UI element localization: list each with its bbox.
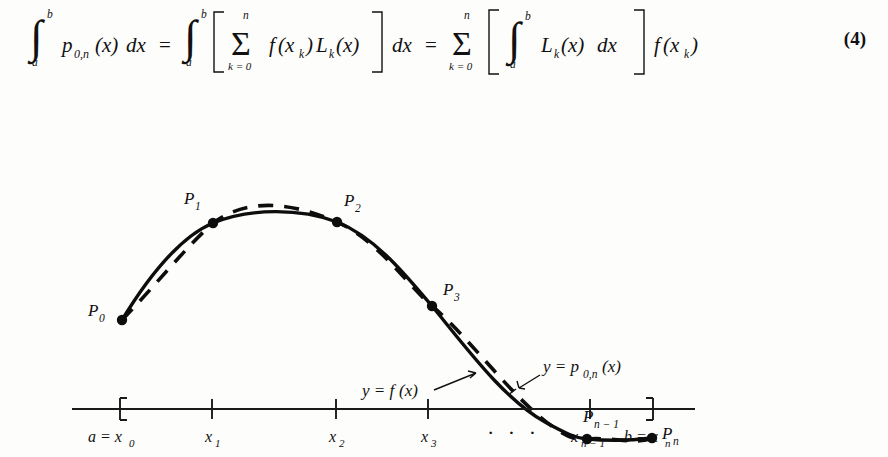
integrand-p-arg: (x) — [95, 33, 118, 57]
integral-1-upper: b — [47, 8, 53, 20]
equals-sign-2: = — [425, 33, 437, 57]
axis-label-x1-sub: 1 — [215, 437, 221, 449]
node-dot-P2 — [332, 217, 342, 227]
sum-symbol-2: Σ — [452, 25, 472, 62]
annotation-p-sub: 0,n — [583, 368, 598, 381]
annotation-p-leader — [517, 375, 540, 389]
axis-label-b-main: b = x — [624, 428, 658, 445]
integral-3-lower: a — [510, 58, 516, 70]
axis-label-a-sub: 0 — [129, 437, 135, 449]
annotation-p-tail: (x) — [602, 357, 621, 376]
bracket-close-1 — [372, 12, 382, 72]
sum-1-L-sub: k — [329, 48, 335, 60]
annotation-p-main: y = p — [541, 357, 579, 376]
sum-1-f: f — [269, 33, 278, 57]
sum-1-f-sub: k — [299, 48, 305, 60]
integral-3-L: L — [540, 33, 553, 57]
sum-1-upper: n — [243, 9, 249, 21]
integral-3-L-arg: (x) — [561, 33, 584, 57]
equals-sign-1: = — [159, 33, 171, 57]
integral-1-lower: a — [32, 56, 38, 68]
equation-svg: ∫ a b p 0,n (x) dx = ∫ a b Σ k = 0 n f (… — [0, 0, 888, 82]
integrand-p-sub: 0,n — [74, 47, 89, 61]
annotation-f-main: y = f — [360, 381, 397, 400]
tail-sub: k — [684, 48, 690, 60]
sum-2-lower: k = 0 — [449, 60, 473, 72]
polynomial-curve-p — [122, 205, 652, 441]
bracket-open-2 — [489, 10, 499, 74]
tail-close: ) — [690, 33, 698, 57]
integral-2-upper: b — [201, 8, 207, 20]
axis-label-x3-main: x — [420, 428, 428, 445]
bracket-close-2 — [634, 10, 644, 74]
point-label-P1-base: P — [183, 189, 194, 208]
integral-3-upper: b — [525, 10, 531, 22]
node-dot-P0 — [117, 315, 127, 325]
sum-1-L: L — [315, 33, 328, 57]
point-label-P2-base: P — [343, 191, 354, 210]
display-equation: ∫ a b p 0,n (x) dx = ∫ a b Σ k = 0 n f (… — [0, 0, 888, 82]
node-dot-P1 — [208, 218, 218, 228]
tail-f: f — [654, 33, 663, 57]
sum-1-L-arg: (x) — [336, 33, 359, 57]
axis-ellipsis: · · · — [487, 420, 540, 445]
axis-label-x3-sub: 3 — [430, 437, 437, 449]
point-label-Pn-sub: n — [673, 435, 679, 447]
figure-svg: P 0 P 1 P 2 P 3 P n − 1 P n y = p 0,n (x… — [0, 82, 888, 457]
point-label-P0-base: P — [87, 301, 98, 320]
function-curve-f — [122, 212, 652, 440]
annotation-f-tail: (x) — [399, 381, 418, 400]
node-dot-P3 — [427, 301, 437, 311]
differential-2: dx — [392, 33, 413, 57]
interpolation-figure: P 0 P 1 P 2 P 3 P n − 1 P n y = p 0,n (x… — [0, 82, 888, 457]
figure-page: ∫ a b p 0,n (x) dx = ∫ a b Σ k = 0 n f (… — [0, 0, 888, 457]
point-label-Pn-1-sub: n − 1 — [594, 418, 619, 430]
axis-label-x1-main: x — [204, 428, 212, 445]
point-label-P1-sub: 1 — [195, 200, 201, 212]
integrand-p: p — [60, 33, 73, 57]
axis-label-xn-1-sub: n − 1 — [581, 437, 605, 449]
axis-label-b-sub: n — [665, 437, 671, 449]
point-label-P2-sub: 2 — [355, 202, 361, 214]
differential-3: dx — [597, 33, 618, 57]
axis-label-a-main: a = x — [88, 428, 122, 445]
axis-label-x2-sub: 2 — [339, 437, 345, 449]
sum-1-f-close: ) — [305, 33, 313, 57]
equation-number: (4) — [844, 28, 866, 50]
axis-label-xn-1-main: x — [570, 428, 578, 445]
sum-2-upper: n — [464, 9, 470, 21]
integral-2-lower: a — [186, 56, 192, 68]
sum-symbol-1: Σ — [231, 25, 251, 62]
bracket-open-1 — [214, 12, 224, 72]
axis-label-x2-main: x — [328, 428, 336, 445]
integral-3-L-sub: k — [554, 48, 560, 60]
point-label-P3-sub: 3 — [453, 291, 460, 303]
sum-1-lower: k = 0 — [228, 60, 252, 72]
point-label-P3-base: P — [442, 280, 453, 299]
annotation-f-leader — [434, 371, 476, 390]
sum-1-f-open: (x — [278, 33, 295, 57]
differential-1: dx — [126, 33, 147, 57]
point-label-P0-sub: 0 — [99, 312, 105, 324]
tail-open: (x — [663, 33, 680, 57]
